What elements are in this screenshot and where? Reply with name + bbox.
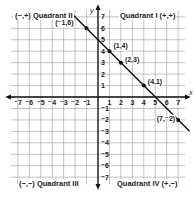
quadrant-ii-label: (−,+) Quadrant II	[14, 11, 74, 20]
y-tick-label: ⁻5	[101, 151, 109, 158]
x-tick-label: ⁻5	[37, 99, 45, 106]
data-point-label: (2,3)	[125, 56, 139, 64]
y-axis-label: y	[89, 7, 94, 15]
x-tick-label: ⁻2	[71, 99, 79, 106]
x-tick-label: ⁻3	[60, 99, 68, 106]
x-axis-left-arrow-icon	[5, 95, 11, 100]
y-axis-down-arrow-icon	[96, 184, 101, 190]
y-tick-label: 6	[101, 25, 105, 32]
y-tick-label: 1	[101, 82, 105, 89]
x-tick-label: ⁻1	[83, 99, 91, 106]
y-tick-label: ⁻2	[101, 116, 109, 123]
quadrant-iii-label: (−,−) Quadrant III	[18, 179, 80, 188]
x-tick-label: ⁻6	[25, 99, 33, 106]
data-point	[142, 84, 146, 88]
x-tick-label: 4	[142, 99, 146, 106]
y-tick-label: ⁻3	[101, 128, 109, 135]
y-tick-label: 2	[101, 71, 105, 78]
y-tick-label: ⁻1	[101, 105, 109, 112]
x-tick-label: 3	[130, 99, 134, 106]
x-tick-label: 5	[153, 99, 157, 106]
x-tick-label: 2	[119, 99, 123, 106]
x-tick-label: ⁻4	[48, 99, 56, 106]
data-point	[176, 118, 180, 122]
x-tick-label: 6	[165, 99, 169, 106]
y-tick-label: ⁻4	[101, 139, 109, 146]
y-tick-label: 3	[101, 59, 105, 66]
data-point-label: (7,⁻2)	[157, 115, 175, 123]
y-tick-label: ⁻6	[101, 162, 109, 169]
data-point-label: (4,1)	[148, 78, 162, 86]
data-point	[85, 26, 89, 30]
axes	[5, 4, 190, 189]
data-point	[119, 61, 123, 65]
y-axis-up-arrow-icon	[96, 4, 101, 10]
x-axis-label: x	[188, 89, 193, 96]
data-point-label: (1,4)	[113, 42, 127, 50]
quadrant-i-label: Quadrant I (+,+)	[119, 11, 176, 20]
data-point-label: (⁻1,6)	[55, 19, 73, 27]
data-line	[72, 13, 190, 131]
y-tick-label: 5	[101, 36, 105, 43]
quadrant-iv-label: Quadrant IV (+,−)	[116, 179, 178, 188]
coordinate-plane: xy⁻7⁻6⁻5⁻4⁻3⁻2⁻11234567⁻7⁻6⁻5⁻4⁻3⁻2⁻1123…	[0, 0, 196, 198]
x-tick-label: 7	[176, 99, 180, 106]
y-tick-label: ⁻7	[101, 174, 109, 181]
y-tick-label: 7	[101, 13, 105, 20]
y-tick-label: 4	[101, 48, 105, 55]
data-point	[107, 49, 111, 53]
x-tick-label: ⁻7	[14, 99, 22, 106]
